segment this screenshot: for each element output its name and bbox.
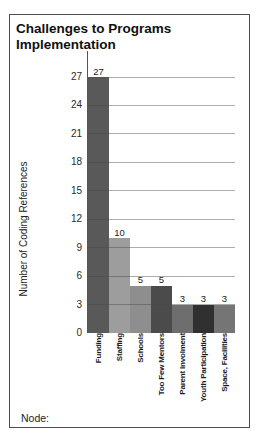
bar-chart: Number of Coding References 27Funding10S… — [10, 15, 249, 427]
chart-panel: Challenges to Programs Implementation Nu… — [9, 14, 250, 428]
bar-staffing — [109, 238, 130, 333]
plot-area: 27Funding10Staffing5Schools5Too Few Ment… — [88, 77, 235, 333]
gridline — [88, 190, 235, 191]
bar-value-label: 3 — [204, 293, 245, 304]
bar-youth-participation — [193, 305, 214, 333]
y-axis-label: Number of Coding References — [18, 154, 30, 304]
x-category-label: Youth Participation — [198, 333, 210, 403]
bar-schools — [130, 286, 151, 333]
gridline — [88, 133, 235, 134]
bar-value-label: 27 — [78, 66, 119, 77]
node-label: Node: — [21, 412, 49, 424]
bar-value-label: 10 — [99, 227, 140, 238]
y-tick-label: 18 — [48, 156, 82, 168]
gridline — [88, 77, 235, 78]
y-tick-label: 3 — [48, 299, 82, 311]
bar-funding — [88, 77, 109, 333]
gridline — [88, 219, 235, 220]
y-tick-label: 24 — [48, 99, 82, 111]
y-tick-label: 6 — [48, 270, 82, 282]
y-tick-label: 21 — [48, 128, 82, 140]
x-category-label: Too Few Mentors — [156, 333, 168, 403]
bar-space-facilities — [214, 305, 235, 333]
gridline — [88, 162, 235, 163]
bar-value-label: 5 — [141, 274, 182, 285]
y-tick-label: 27 — [48, 71, 82, 83]
x-category-label: Staffing — [114, 333, 126, 403]
gridline — [88, 105, 235, 106]
x-category-label: Space, Facilities — [219, 333, 231, 403]
y-tick-label: 0 — [48, 327, 82, 339]
gridline — [88, 304, 235, 305]
x-category-label: Funding — [93, 333, 105, 403]
y-tick-label: 12 — [48, 213, 82, 225]
x-category-label: Parent Involment — [177, 333, 189, 403]
y-tick-label: 15 — [48, 185, 82, 197]
gridline — [88, 247, 235, 248]
bar-parent-involment — [172, 305, 193, 333]
x-category-label: Schools — [135, 333, 147, 403]
y-tick-label: 9 — [48, 242, 82, 254]
